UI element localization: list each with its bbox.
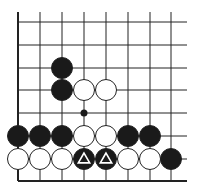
white-stone [8,149,29,170]
black-stone [52,126,73,147]
black-stone [140,126,161,147]
white-stone [52,149,73,170]
black-stone [161,149,182,170]
white-stone [74,126,95,147]
white-stone [96,80,117,101]
black-stone [74,149,95,170]
black-stone [52,58,73,79]
white-stone [74,80,95,101]
white-stone [118,149,139,170]
black-stone [8,126,29,147]
markers-layer [81,110,88,117]
black-stone [52,80,73,101]
black-stone [96,149,117,170]
go-board [0,0,201,191]
white-stone [96,126,117,147]
white-stone [30,149,51,170]
white-stone [140,149,161,170]
point-marker-dot [81,110,88,117]
black-stone [118,126,139,147]
black-stone [30,126,51,147]
